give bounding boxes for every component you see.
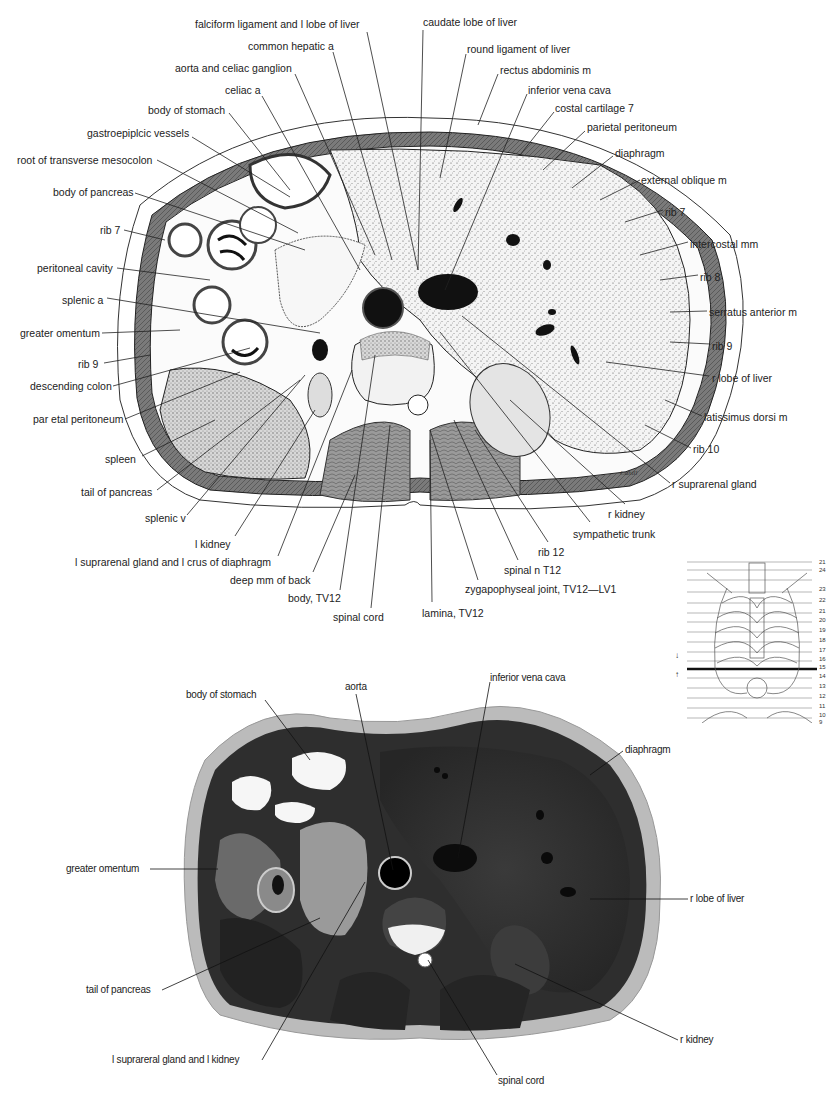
cross-section-photograph	[0, 0, 830, 1093]
photo-label-diaphragm: diaphragm	[625, 744, 670, 756]
photo-label-body-of-stomach: body of stomach	[186, 689, 256, 701]
photo-label-aorta: aorta	[345, 681, 367, 693]
photo-label-tail-of-pancreas: tail of pancreas	[86, 984, 151, 996]
photo-label-right-lobe-liver: r lobe of liver	[690, 893, 744, 905]
photo-label-left-suprarenal-kidney: l suprareral gland and l kidney	[112, 1054, 239, 1066]
photo-label-right-kidney: r kidney	[680, 1034, 713, 1046]
photo-label-inferior-vena-cava: inferior vena cava	[490, 672, 565, 684]
photo-label-spinal-cord: spinal cord	[498, 1075, 544, 1087]
photo-label-greater-omentum: greater omentum	[66, 863, 139, 875]
